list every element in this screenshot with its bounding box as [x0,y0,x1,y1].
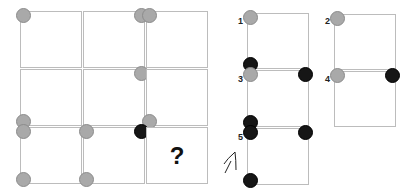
grid-cell-r0c1 [83,11,145,68]
black-dot-icon [385,68,400,83]
option-4[interactable] [334,71,396,127]
grid-cell-r1c1 [83,69,145,126]
gray-dot-icon [243,67,258,82]
grid-cell-r1c2 [146,69,208,126]
gray-dot-icon [16,124,31,139]
gray-dot-icon [16,172,31,187]
gray-dot-icon [142,8,157,23]
grid-cell-r2c1 [83,127,145,184]
grid-cell-r0c2 [146,11,208,68]
option-2[interactable] [334,14,396,70]
black-dot-icon [298,125,313,140]
black-dot-icon [298,67,313,82]
grid-cell-r0c0 [20,11,82,68]
gray-dot-icon [243,10,258,25]
question-mark: ? [147,128,207,183]
option-1[interactable] [247,13,309,69]
option-3[interactable] [247,70,309,127]
gray-dot-icon [79,172,94,187]
black-dot-icon [243,173,258,188]
grid-cell-r2c0 [20,127,82,184]
gray-dot-icon [16,8,31,23]
option-5[interactable] [247,128,309,185]
black-dot-icon [243,125,258,140]
handwritten-checkmark-icon [222,148,242,176]
grid-cell-r1c0 [20,69,82,126]
gray-dot-icon [330,11,345,26]
grid-cell-missing: ? [146,127,208,184]
gray-dot-icon [330,68,345,83]
gray-dot-icon [79,124,94,139]
